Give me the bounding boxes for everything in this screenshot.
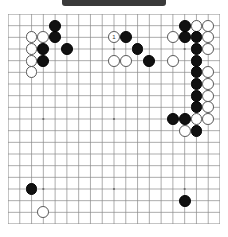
stone-black[interactable] [26,183,38,195]
stone-white[interactable] [191,20,203,32]
stone-black[interactable] [179,20,191,32]
stone-black[interactable] [191,78,203,90]
stone-black[interactable] [37,55,49,67]
go-board[interactable]: 1 [8,14,220,224]
stone-black[interactable] [191,125,203,137]
stone-white[interactable] [26,55,38,67]
stone-black[interactable] [191,90,203,102]
stone-white[interactable] [202,90,214,102]
stone-black[interactable] [179,195,191,207]
stone-white[interactable] [37,31,49,43]
stone-white[interactable] [191,113,203,125]
stone-white[interactable] [202,66,214,78]
stone-white[interactable]: 1 [108,31,120,43]
stone-move-number: 1 [109,32,119,42]
stone-white[interactable] [202,43,214,55]
stone-black[interactable] [191,43,203,55]
stone-black[interactable] [120,31,132,43]
stone-white[interactable] [37,206,49,218]
stone-white[interactable] [108,55,120,67]
stone-black[interactable] [132,43,144,55]
stone-black[interactable] [191,101,203,113]
stone-white[interactable] [202,20,214,32]
stone-white[interactable] [202,78,214,90]
stone-white[interactable] [26,66,38,78]
stone-white[interactable] [202,101,214,113]
stone-black[interactable] [61,43,73,55]
go-diagram: 1 [0,0,228,237]
stone-white[interactable] [26,31,38,43]
stone-white[interactable] [167,31,179,43]
stone-white[interactable] [167,55,179,67]
stone-black[interactable] [191,66,203,78]
diagram-caption [24,227,214,235]
stone-layer: 1 [8,14,220,224]
stone-black[interactable] [191,31,203,43]
stone-white[interactable] [179,125,191,137]
stone-black[interactable] [191,55,203,67]
stone-black[interactable] [49,20,61,32]
stone-black[interactable] [49,31,61,43]
stone-black[interactable] [167,113,179,125]
stone-black[interactable] [37,43,49,55]
stone-white[interactable] [26,43,38,55]
stone-black[interactable] [179,31,191,43]
stone-black[interactable] [179,113,191,125]
stone-white[interactable] [120,55,132,67]
stone-white[interactable] [202,113,214,125]
stone-black[interactable] [143,55,155,67]
stone-white[interactable] [202,31,214,43]
